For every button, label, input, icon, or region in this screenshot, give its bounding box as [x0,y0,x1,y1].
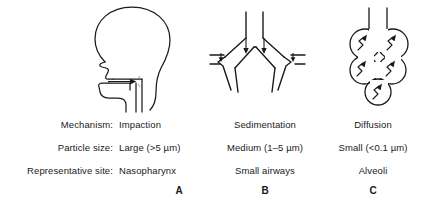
row-representative-site: Representative site: Nasopharynx Small a… [0,163,425,179]
brownian-motion-arrow-2-icon [387,35,396,51]
impaction-deposit-marks-icon [138,76,140,87]
panel-c-particle-size-value: Small (<0.1 µm) [325,140,421,156]
panel-b-representative-site-value: Small airways [205,163,325,179]
row-label-mechanism: Mechanism: [0,117,113,133]
panel-a-illustration-head-profile [78,0,188,112]
row-particle-size: Particle size: Large (>5 µm) Medium (1–5… [0,140,425,156]
airway-bifurcation-icon [205,0,310,112]
row-label-representative-site: Representative site: [0,163,113,179]
panel-b-letter: B [205,183,325,199]
panel-c-illustration-alveoli [340,0,420,112]
illustration-band [0,0,425,112]
panel-c-mechanism-value: Diffusion [325,117,421,133]
panel-c-representative-site-value: Alveoli [325,163,421,179]
row-label-particle-size: Particle size: [0,140,113,156]
annotation-rows: Mechanism: Impaction Sedimentation Diffu… [0,112,425,203]
row-mechanism: Mechanism: Impaction Sedimentation Diffu… [0,117,425,133]
panel-b-mechanism-value: Sedimentation [205,117,325,133]
panel-b-particle-size-value: Medium (1–5 µm) [205,140,325,156]
row-panel-letters: A B C [0,183,425,199]
brownian-motion-arrow-1-icon [358,35,367,51]
panel-b-illustration-airway-bifurcation [205,0,310,112]
particle-deposition-figure: Mechanism: Impaction Sedimentation Diffu… [0,0,425,203]
alveolar-sac-cluster-icon [340,0,420,112]
head-profile-icon [78,0,188,112]
panel-c-letter: C [325,183,421,199]
